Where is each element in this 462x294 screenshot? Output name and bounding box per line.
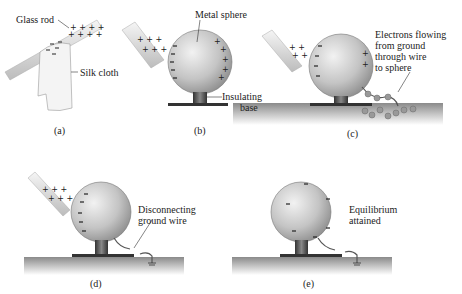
svg-text:+ + +: + + + [48, 194, 73, 203]
panel-e [232, 182, 392, 275]
label-e-line1: Equilibrium [349, 204, 397, 215]
caption-b: (b) [194, 125, 206, 136]
svg-text:+: + [362, 60, 369, 69]
label-c-line4: to sphere [375, 62, 411, 73]
insulating-base [193, 92, 207, 104]
svg-text:+: + [220, 45, 227, 54]
caption-c: (c) [347, 128, 358, 139]
silk-cloth [38, 43, 72, 111]
svg-text:+ + +: + + + [42, 185, 67, 194]
metal-sphere [271, 182, 331, 242]
svg-text:+: + [218, 73, 225, 82]
label-c-line3: through wire [375, 51, 426, 62]
label-metal-sphere: Metal sphere [195, 9, 247, 20]
label-e-line2: attained [349, 215, 381, 226]
svg-text:+ +: + + [292, 51, 308, 60]
label-base: base [240, 102, 258, 113]
label-silk-cloth: Silk cloth [80, 67, 119, 78]
label-c-line2: from ground [375, 40, 425, 51]
label-c-line1: Electrons flowing [375, 29, 446, 40]
caption-e: (e) [303, 278, 314, 289]
svg-text:+: + [362, 49, 369, 58]
label-insulating: Insulating [222, 91, 262, 102]
svg-text:+ + +: + + + [142, 45, 167, 54]
panel-b: + + ++ + + +++++ [122, 20, 232, 106]
svg-text:+ + +: + + + [137, 35, 162, 44]
label-d-line1: Disconnecting [138, 204, 196, 215]
label-d-line2: ground wire [138, 215, 187, 226]
positive-charges: + + + ++ + + + [68, 23, 104, 39]
label-glass-rod: Glass rod [16, 14, 54, 25]
caption-d: (d) [90, 278, 102, 289]
panel-a: + + + ++ + + + [5, 20, 104, 111]
caption-a: (a) [54, 125, 65, 136]
svg-text:+: + [222, 55, 229, 64]
metal-sphere [71, 182, 131, 242]
svg-text:+ + + +: + + + + [68, 30, 102, 39]
